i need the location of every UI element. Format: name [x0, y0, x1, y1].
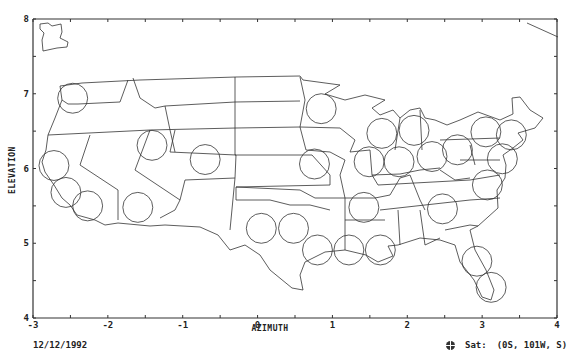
beam-circle	[472, 170, 502, 200]
beam-circle	[399, 115, 429, 145]
beam-circle	[123, 192, 153, 222]
beam-circle	[334, 235, 364, 265]
y-axis-label: ELEVATION	[8, 146, 17, 194]
beam-circle	[39, 151, 69, 181]
x-tick-label: -1	[177, 320, 188, 330]
beam-circle	[349, 192, 379, 222]
beam-circle	[476, 272, 506, 302]
beam-circle	[462, 246, 492, 276]
beam-circle	[279, 213, 309, 243]
beam-circle	[302, 235, 332, 265]
y-ticks: 45678	[24, 14, 557, 323]
y-tick-label: 7	[24, 89, 29, 99]
beam-circle	[367, 118, 397, 148]
y-tick-label: 4	[24, 313, 30, 323]
y-tick-label: 8	[24, 14, 29, 24]
date-label: 12/12/1992	[33, 340, 87, 350]
x-tick-label: 2	[405, 320, 410, 330]
beam-circles	[39, 83, 526, 302]
y-tick-label: 5	[24, 238, 29, 248]
sat-label: Sat:	[465, 340, 487, 350]
x-ticks: -3-2-101234	[28, 19, 561, 330]
state-lines	[48, 77, 500, 250]
beam-circle	[354, 147, 384, 177]
beam-circle	[58, 83, 88, 113]
beam-coverage-chart: -3-2-101234 45678 AZIMUTH ELEVATION	[0, 0, 577, 357]
x-tick-label: 3	[479, 320, 484, 330]
inset-line	[527, 23, 558, 37]
beam-circle	[365, 235, 395, 265]
beam-circle	[246, 213, 276, 243]
beam-circle	[137, 130, 167, 160]
x-axis-label: AZIMUTH	[251, 324, 288, 333]
us-map	[40, 23, 558, 300]
x-tick-label: -3	[28, 320, 39, 330]
beam-circle	[299, 149, 329, 179]
beam-circle	[51, 177, 81, 207]
inset-outline	[40, 23, 68, 51]
beam-circle	[190, 145, 220, 175]
x-tick-label: 4	[554, 320, 560, 330]
globe-icon	[446, 341, 455, 350]
y-tick-label: 6	[24, 164, 29, 174]
x-tick-label: -2	[102, 320, 113, 330]
beam-circle	[384, 147, 414, 177]
beam-circle	[417, 142, 447, 172]
x-tick-label: 1	[330, 320, 335, 330]
beam-circle	[487, 144, 517, 174]
sat-value: (0S, 101W, S)	[497, 340, 567, 350]
beam-circle	[427, 194, 457, 224]
beam-circle	[306, 94, 336, 124]
satellite-info: Sat: (0S, 101W, S)	[446, 340, 567, 350]
beam-circle	[73, 191, 103, 221]
us-outline	[42, 76, 543, 300]
